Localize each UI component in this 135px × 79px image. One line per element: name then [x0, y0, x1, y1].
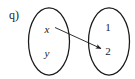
domain-element-y: y	[45, 48, 50, 59]
codomain-element-1: 1	[105, 22, 111, 33]
domain-oval	[29, 8, 70, 75]
figure-canvas: q) x y 1 2	[0, 0, 135, 79]
domain-element-x: x	[45, 24, 50, 35]
figure-label: q)	[9, 9, 19, 21]
codomain-element-2: 2	[105, 46, 111, 57]
mapping-diagram	[0, 0, 135, 79]
codomain-oval	[89, 8, 130, 75]
mapping-arrow-x-to-2	[55, 28, 101, 49]
